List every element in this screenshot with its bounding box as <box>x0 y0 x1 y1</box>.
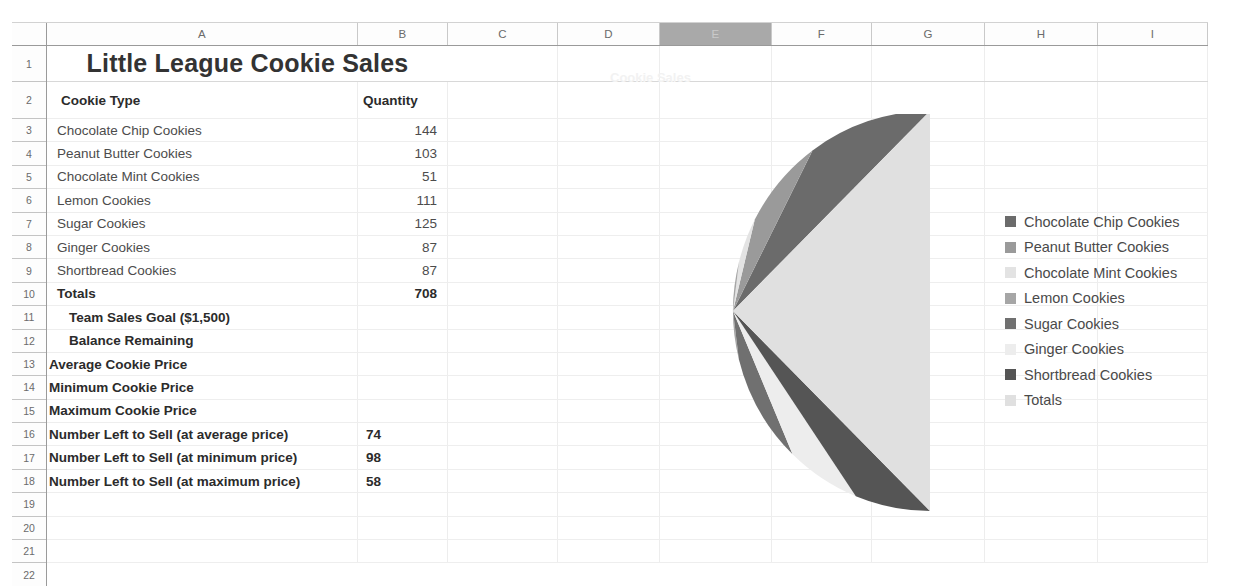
row-header-19[interactable]: 19 <box>12 493 46 516</box>
cell-F19[interactable] <box>772 493 872 515</box>
cell-C14[interactable] <box>448 376 558 398</box>
row-header-3[interactable]: 3 <box>12 119 46 142</box>
cell-b5[interactable]: 51 <box>358 166 448 188</box>
column-header-g[interactable]: G <box>872 23 985 45</box>
row-header-17[interactable]: 17 <box>12 446 46 469</box>
cell-H20[interactable] <box>985 517 1098 539</box>
cell-E4[interactable] <box>660 142 772 164</box>
cell-I19[interactable] <box>1098 493 1208 515</box>
cell-a8[interactable]: Ginger Cookies <box>47 236 358 258</box>
cell-E15[interactable] <box>660 400 772 422</box>
cell-C16[interactable] <box>448 423 558 445</box>
row-header-14[interactable]: 14 <box>12 376 46 399</box>
row-header-5[interactable]: 5 <box>12 166 46 189</box>
column-header-c[interactable]: C <box>448 23 558 45</box>
cell-H16[interactable] <box>985 423 1098 445</box>
cell-G11[interactable] <box>872 306 985 328</box>
cell-H5[interactable] <box>985 166 1098 188</box>
cell-b3[interactable]: 144 <box>358 119 448 141</box>
cell-I21[interactable] <box>1098 540 1208 562</box>
cell-E8[interactable] <box>660 236 772 258</box>
cell-H13[interactable] <box>985 353 1098 375</box>
cell-E3[interactable] <box>660 119 772 141</box>
cell-E13[interactable] <box>660 353 772 375</box>
cell-b21[interactable] <box>358 540 448 562</box>
cell-F11[interactable] <box>772 306 872 328</box>
cell-H21[interactable] <box>985 540 1098 562</box>
cell-b13[interactable] <box>358 353 448 375</box>
cell-a13[interactable]: Average Cookie Price <box>47 353 358 375</box>
cell-G7[interactable] <box>872 213 985 235</box>
row-header-2[interactable]: 2 <box>12 82 46 119</box>
cell-C19[interactable] <box>448 493 558 515</box>
cell-C13[interactable] <box>448 353 558 375</box>
cell-b6[interactable]: 111 <box>358 189 448 211</box>
cell-C15[interactable] <box>448 400 558 422</box>
cell-b7[interactable]: 125 <box>358 213 448 235</box>
cell-I4[interactable] <box>1098 142 1208 164</box>
cell-G1[interactable] <box>872 46 985 81</box>
cell-I6[interactable] <box>1098 189 1208 211</box>
cell-F5[interactable] <box>772 166 872 188</box>
cell-a14[interactable]: Minimum Cookie Price <box>47 376 358 398</box>
cell-b15[interactable] <box>358 400 448 422</box>
row-header-9[interactable]: 9 <box>12 259 46 282</box>
cell-I2[interactable] <box>1098 82 1208 118</box>
cell-b8[interactable]: 87 <box>358 236 448 258</box>
cell-a15[interactable]: Maximum Cookie Price <box>47 400 358 422</box>
row-header-8[interactable]: 8 <box>12 236 46 259</box>
cell-G18[interactable] <box>872 470 985 492</box>
cell-D9[interactable] <box>558 259 660 281</box>
cell-G4[interactable] <box>872 142 985 164</box>
cell-D2[interactable] <box>558 82 660 118</box>
cell-b16[interactable]: 74 <box>358 423 448 445</box>
cell-H6[interactable] <box>985 189 1098 211</box>
cell-b17[interactable]: 98 <box>358 446 448 468</box>
cell-C10[interactable] <box>448 283 558 305</box>
cell-C21[interactable] <box>448 540 558 562</box>
cell-E21[interactable] <box>660 540 772 562</box>
cell-E16[interactable] <box>660 423 772 445</box>
cell-a6[interactable]: Lemon Cookies <box>47 189 358 211</box>
cell-C2[interactable] <box>448 82 558 118</box>
cell-a17[interactable]: Number Left to Sell (at minimum price) <box>47 446 358 468</box>
cell-F7[interactable] <box>772 213 872 235</box>
cell-H3[interactable] <box>985 119 1098 141</box>
cell-F4[interactable] <box>772 142 872 164</box>
cell-b9[interactable]: 87 <box>358 259 448 281</box>
sheet-title[interactable]: Little League Cookie Sales <box>47 46 448 81</box>
cell-C17[interactable] <box>448 446 558 468</box>
cell-D10[interactable] <box>558 283 660 305</box>
cell-F14[interactable] <box>772 376 872 398</box>
cell-D4[interactable] <box>558 142 660 164</box>
cell-F13[interactable] <box>772 353 872 375</box>
cell-a18[interactable]: Number Left to Sell (at maximum price) <box>47 470 358 492</box>
cell-D20[interactable] <box>558 517 660 539</box>
cell-a3[interactable]: Chocolate Chip Cookies <box>47 119 358 141</box>
cell-D8[interactable] <box>558 236 660 258</box>
cell-E11[interactable] <box>660 306 772 328</box>
row-header-11[interactable]: 11 <box>12 306 46 329</box>
cell-F3[interactable] <box>772 119 872 141</box>
cell-b12[interactable] <box>358 330 448 352</box>
cell-H19[interactable] <box>985 493 1098 515</box>
cell-D1[interactable] <box>558 46 660 81</box>
select-all-corner[interactable] <box>12 23 47 45</box>
cell-E18[interactable] <box>660 470 772 492</box>
cell-G20[interactable] <box>872 517 985 539</box>
column-header-d[interactable]: D <box>558 23 660 45</box>
cell-C18[interactable] <box>448 470 558 492</box>
cell-H4[interactable] <box>985 142 1098 164</box>
cell-b19[interactable] <box>358 493 448 515</box>
cell-G14[interactable] <box>872 376 985 398</box>
cell-G5[interactable] <box>872 166 985 188</box>
cell-D16[interactable] <box>558 423 660 445</box>
cell-G12[interactable] <box>872 330 985 352</box>
cell-F16[interactable] <box>772 423 872 445</box>
cell-G9[interactable] <box>872 259 985 281</box>
cell-F20[interactable] <box>772 517 872 539</box>
cell-I18[interactable] <box>1098 470 1208 492</box>
cell-D14[interactable] <box>558 376 660 398</box>
cell-a9[interactable]: Shortbread Cookies <box>47 259 358 281</box>
cell-F21[interactable] <box>772 540 872 562</box>
